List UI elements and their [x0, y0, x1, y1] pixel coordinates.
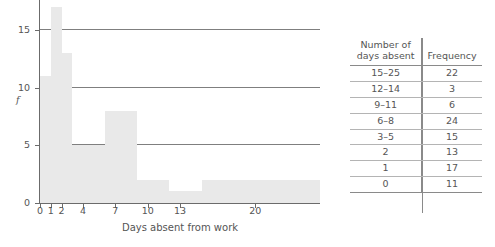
- histogram-bar: [40, 76, 51, 203]
- histogram-bar: [51, 7, 62, 203]
- cell-frequency: 6: [422, 97, 482, 113]
- y-tick-mark-5: [35, 145, 40, 146]
- cell-frequency: 11: [422, 177, 482, 193]
- frequency-table-container: Number of days absent Frequency 15–25221…: [350, 38, 482, 193]
- histogram-bar: [72, 145, 104, 203]
- y-tick-label-10: 10: [4, 83, 30, 93]
- x-tick-label-20: 20: [245, 206, 265, 216]
- histogram-bar: [62, 53, 73, 203]
- gridline-y-10: [40, 87, 320, 88]
- table-header-row: Number of days absent Frequency: [350, 38, 482, 65]
- table-row: 011: [350, 177, 482, 193]
- x-tick-label-13: 13: [170, 206, 190, 216]
- histogram-bar: [169, 191, 201, 203]
- cell-days-absent: 1: [350, 161, 422, 177]
- histogram-figure: 051015 01247101320 f Days absent from wo…: [0, 0, 330, 247]
- y-tick-label-5: 5: [4, 140, 30, 150]
- x-axis-title: Days absent from work: [40, 222, 320, 233]
- y-axis-title: f: [16, 94, 20, 105]
- cell-days-absent: 2: [350, 145, 422, 161]
- frequency-table: Number of days absent Frequency 15–25221…: [350, 38, 482, 193]
- cell-days-absent: 9–11: [350, 97, 422, 113]
- histogram-bar: [137, 180, 169, 203]
- x-tick-label-2: 2: [52, 206, 72, 216]
- header-frequency: Frequency: [422, 38, 482, 65]
- histogram-bar: [202, 180, 320, 203]
- table-body: 15–252212–1439–1166–8243–515213117011: [350, 65, 482, 192]
- y-tick-label-15: 15: [4, 25, 30, 35]
- cell-days-absent: 6–8: [350, 113, 422, 129]
- y-tick-mark-10: [35, 88, 40, 89]
- cell-days-absent: 15–25: [350, 65, 422, 81]
- histogram-bar: [105, 111, 137, 203]
- cell-frequency: 3: [422, 81, 482, 97]
- y-tick-mark-15: [35, 30, 40, 31]
- x-tick-label-10: 10: [138, 206, 158, 216]
- cell-frequency: 17: [422, 161, 482, 177]
- table-row: 9–116: [350, 97, 482, 113]
- cell-days-absent: 12–14: [350, 81, 422, 97]
- table-row: 12–143: [350, 81, 482, 97]
- header-days-absent: Number of days absent: [350, 38, 422, 65]
- cell-days-absent: 3–5: [350, 129, 422, 145]
- header-days-absent-line1: Number of: [360, 39, 410, 50]
- cell-days-absent: 0: [350, 177, 422, 193]
- table-row: 6–824: [350, 113, 482, 129]
- y-tick-label-0: 0: [4, 198, 30, 208]
- table-row: 117: [350, 161, 482, 177]
- cell-frequency: 15: [422, 129, 482, 145]
- x-tick-label-7: 7: [105, 206, 125, 216]
- header-days-absent-line2: days absent: [357, 50, 415, 61]
- cell-frequency: 13: [422, 145, 482, 161]
- table-header: Number of days absent Frequency: [350, 38, 482, 65]
- cell-frequency: 24: [422, 113, 482, 129]
- gridline-y-15: [40, 29, 320, 30]
- plot-area: [40, 0, 320, 203]
- table-row: 15–2522: [350, 65, 482, 81]
- table-row: 213: [350, 145, 482, 161]
- table-row: 3–515: [350, 129, 482, 145]
- x-tick-label-4: 4: [73, 206, 93, 216]
- cell-frequency: 22: [422, 65, 482, 81]
